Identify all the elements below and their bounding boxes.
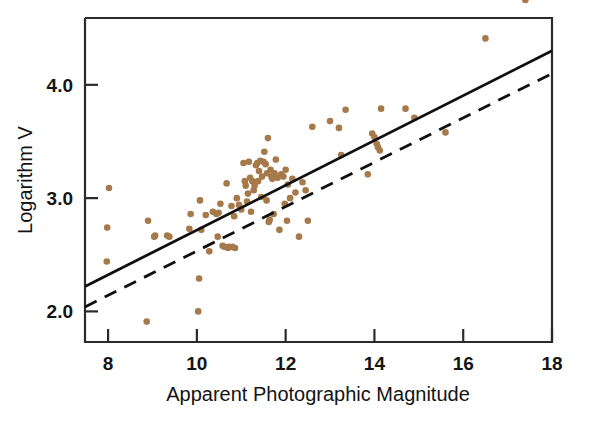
plot-frame [85, 18, 552, 342]
data-point [256, 168, 263, 175]
data-point [143, 318, 150, 325]
y-tick-labels: 2.03.04.0 [47, 75, 73, 323]
scatter-plot-figure: 2.03.04.0 81012141618 Apparent Photograp… [0, 0, 589, 434]
dashed-fit-line [85, 74, 552, 307]
x-tick-label: 10 [186, 353, 207, 374]
fit-lines [85, 51, 552, 307]
data-point [217, 200, 224, 207]
data-point [336, 125, 343, 132]
y-axis-title: Logarithm V [14, 125, 36, 233]
data-point [196, 275, 203, 282]
data-point [364, 171, 371, 178]
plot-canvas: 2.03.04.0 81012141618 Apparent Photograp… [0, 0, 589, 434]
data-point [223, 180, 230, 187]
data-point [299, 179, 306, 186]
data-point [234, 195, 241, 202]
data-point [305, 217, 312, 224]
data-point [309, 123, 316, 130]
x-tick-label: 12 [275, 353, 296, 374]
x-tick-label: 18 [541, 353, 562, 374]
data-point [482, 35, 489, 42]
data-point [242, 182, 249, 189]
data-point [106, 185, 113, 192]
y-tick-label: 2.0 [47, 301, 73, 322]
x-axis-ticks [108, 329, 552, 342]
data-point [248, 208, 255, 215]
data-point [282, 167, 289, 174]
data-point [327, 118, 334, 125]
data-point [273, 156, 280, 163]
data-point [276, 227, 283, 234]
data-point [292, 189, 299, 196]
data-point [103, 258, 110, 265]
data-point [245, 190, 252, 197]
data-point [228, 203, 235, 210]
data-point [145, 217, 152, 224]
data-point [342, 106, 349, 113]
data-point [186, 225, 193, 232]
data-point [195, 308, 202, 315]
data-point [302, 187, 309, 194]
scatter-points [103, 0, 528, 325]
data-point [246, 159, 253, 166]
data-point [202, 212, 209, 219]
y-tick-label: 4.0 [47, 75, 73, 96]
data-point [266, 216, 273, 223]
data-point [378, 105, 385, 112]
data-point [284, 217, 291, 224]
data-point [232, 245, 239, 252]
data-point [261, 148, 268, 155]
data-point [280, 173, 287, 180]
x-tick-labels: 81012141618 [103, 353, 563, 374]
data-point [522, 0, 529, 3]
x-tick-label: 16 [453, 353, 474, 374]
data-point [152, 232, 159, 239]
data-point [376, 147, 383, 154]
x-tick-label: 14 [364, 353, 386, 374]
data-point [104, 224, 111, 231]
x-axis-title: Apparent Photographic Magnitude [166, 383, 470, 405]
data-point [206, 248, 213, 255]
solid-fit-line [85, 51, 552, 287]
data-point [215, 210, 222, 217]
data-point [402, 105, 409, 112]
y-tick-label: 3.0 [47, 188, 73, 209]
data-point [187, 211, 194, 218]
data-point [287, 195, 294, 202]
x-tick-label: 8 [103, 353, 114, 374]
data-point [263, 197, 270, 204]
data-point [262, 161, 269, 168]
data-point [166, 233, 173, 240]
data-point [265, 135, 272, 142]
data-point [442, 129, 449, 136]
data-point [197, 197, 204, 204]
y-axis-ticks [85, 85, 98, 312]
data-point [296, 233, 303, 240]
data-point [214, 233, 221, 240]
